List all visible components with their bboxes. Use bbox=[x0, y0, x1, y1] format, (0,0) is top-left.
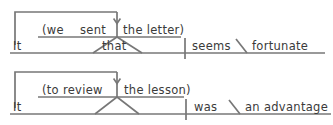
diagram-1-group: It seems fortunate that (we sent the let… bbox=[10, 12, 325, 59]
embedded-object-label-2: the lesson) bbox=[124, 83, 191, 97]
complement-slash-1 bbox=[236, 39, 247, 53]
embedded-subject-label-1: (we bbox=[42, 23, 64, 37]
embedded-verb-label-1: sent bbox=[80, 23, 106, 37]
diagram-canvas: It seems fortunate that (we sent the let… bbox=[0, 0, 333, 125]
diagram-2-group: It was an advantage (to review the lesso… bbox=[10, 72, 331, 120]
verb-label-2: was bbox=[194, 100, 217, 114]
subject-label-2: It bbox=[13, 100, 22, 114]
embedded-object-label-1: the letter) bbox=[123, 23, 184, 37]
complement-label-2: an advantage bbox=[245, 100, 328, 114]
complement-slash-2 bbox=[229, 100, 240, 114]
verb-label-1: seems bbox=[192, 39, 231, 53]
subordinator-label-1: that bbox=[102, 39, 127, 53]
subordinator-leg-left-2 bbox=[95, 97, 117, 114]
subordinator-leg-right-2 bbox=[117, 97, 139, 114]
complement-label-1: fortunate bbox=[252, 39, 308, 53]
subject-label-1: It bbox=[13, 39, 22, 53]
sentence-diagram-figure: It seems fortunate that (we sent the let… bbox=[0, 0, 333, 125]
embedded-subject-label-2: (to review bbox=[42, 83, 103, 97]
